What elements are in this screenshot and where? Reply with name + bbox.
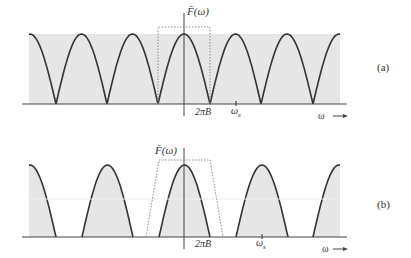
spectrum-lobe-fill [236, 165, 288, 237]
sampling-spectrum-diagram [0, 0, 411, 258]
spectrum-lobe-fill [82, 165, 133, 237]
arrow-right-icon [343, 114, 348, 118]
spectrum-lobe-fill [313, 165, 365, 237]
spectrum-lobe-fill [4, 165, 56, 237]
arrow-right-icon [343, 247, 348, 251]
